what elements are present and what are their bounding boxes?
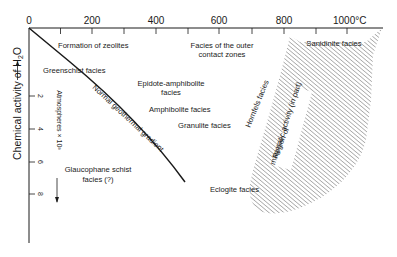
greenschist-label: Greenschist facies [43,66,106,75]
epidote-amphibolite-label: Epidote-amphibolite [137,79,204,88]
magmatic-region [250,28,382,213]
hornfels-label: Hornfels facies [244,79,271,129]
x-axis: 0 200 400 600 800 1000°C [26,15,383,34]
outer-contact-label-2: contact zones [199,50,246,59]
y-tick-8: 8 [37,192,44,196]
x-tick-200: 200 [84,15,101,26]
x-tick-0: 0 [26,15,32,26]
metamorphic-facies-diagram: 0 200 400 600 800 1000°C 2 4 6 8 Chemica… [0,0,397,257]
eclogite-label: Eclogite facies [210,185,259,194]
granulite-label: Granulite facies [178,121,231,130]
outer-contact-label: Facies of the outer [191,41,254,50]
x-tick-1000: 1000°C [333,15,366,26]
amphibolite-label: Amphibolite facies [149,105,211,114]
glaucophane-label: Glaucophane schist [65,165,133,174]
x-tick-600: 600 [211,15,228,26]
epidote-amphibolite-label-2: facies [161,88,181,97]
y-axis: 2 4 6 8 Chemical activity of H2O Atmosph… [11,28,63,243]
y-tick-4: 4 [37,127,44,131]
y-tick-6: 6 [37,160,44,164]
x-tick-400: 400 [148,15,165,26]
geothermal-gradient-label: Normal geothermal gradient [91,83,167,154]
arrow-down-icon [55,178,59,203]
sanidinite-label: Sanidinite facies [306,39,362,48]
atmospheres-label: Atmospheres × 10³ [55,90,63,150]
zeolites-label: Formation of zeolites [58,41,129,50]
glaucophane-label-2: facies (?) [82,175,114,184]
y-tick-2: 2 [37,94,44,98]
x-tick-800: 800 [276,15,293,26]
